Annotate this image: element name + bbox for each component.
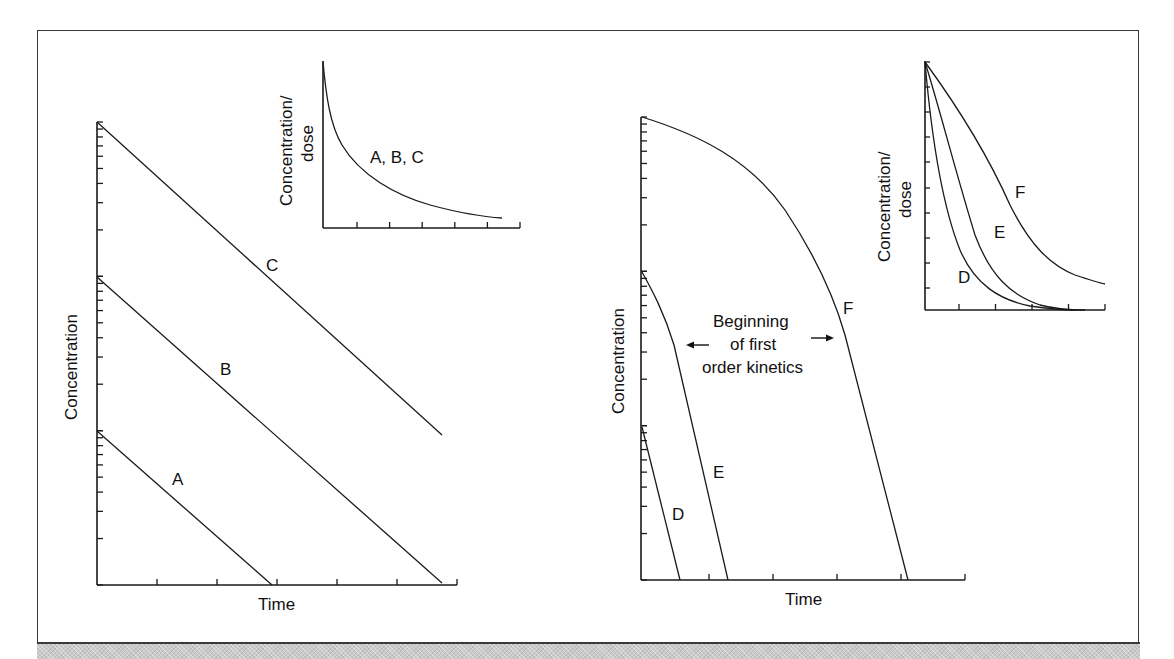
right-x-axis-label: Time [785, 590, 822, 609]
first-order-annotation: Beginning of first order kinetics [686, 312, 834, 377]
annotation-line-1: Beginning [713, 312, 789, 331]
curve-d [642, 427, 680, 580]
inset-d-label: D [958, 268, 970, 287]
right-inset-y-axis-label-line1: Concentration/ [875, 151, 894, 262]
right-inset-x-ticks [959, 304, 1105, 310]
curve-f-label: F [843, 299, 853, 318]
annotation-line-3: order kinetics [702, 358, 803, 377]
left-inset-y-axis-label-line2: dose [298, 125, 317, 162]
left-y-axis-label: Concentration [62, 314, 81, 420]
left-inset-y-axis-label-line1: Concentration/ [277, 95, 296, 206]
right-x-ticks [709, 574, 965, 580]
left-x-ticks [157, 579, 457, 585]
inset-e-label: E [994, 223, 1005, 242]
inset-f-label: F [1015, 183, 1025, 202]
left-main-plot: A B C Time Concentration [62, 122, 457, 614]
annotation-line-2: of first [730, 335, 777, 354]
right-y-axis-label: Concentration [609, 308, 628, 414]
left-inset-x-ticks [357, 222, 520, 228]
left-y-ticks [97, 122, 103, 585]
curve-f-inset [925, 62, 1105, 284]
curve-e-label: E [713, 463, 724, 482]
arrow-right-icon [826, 335, 834, 342]
curve-b-label: B [220, 360, 231, 379]
curve-d-label: D [672, 505, 684, 524]
curve-abc-inset [323, 62, 502, 218]
curve-c [97, 122, 442, 435]
curve-c-label: C [266, 256, 278, 275]
right-y-ticks [641, 117, 647, 580]
left-inset-plot: A, B, C Concentration/ dose [277, 61, 520, 228]
curve-d-inset [925, 62, 1075, 310]
figure-canvas: A B C Time Concentration A, B, C Concent… [0, 0, 1174, 659]
curve-a-label: A [172, 470, 184, 489]
curve-e-inset [925, 62, 1085, 310]
right-inset-y-axis-label-line2: dose [896, 181, 915, 218]
curve-b [97, 277, 442, 583]
right-inset-plot: D E F Concentration/ dose [875, 61, 1105, 310]
curve-a [97, 431, 272, 585]
arrow-left-icon [686, 342, 694, 349]
left-inset-curve-label: A, B, C [370, 148, 424, 167]
left-x-axis-label: Time [258, 595, 295, 614]
